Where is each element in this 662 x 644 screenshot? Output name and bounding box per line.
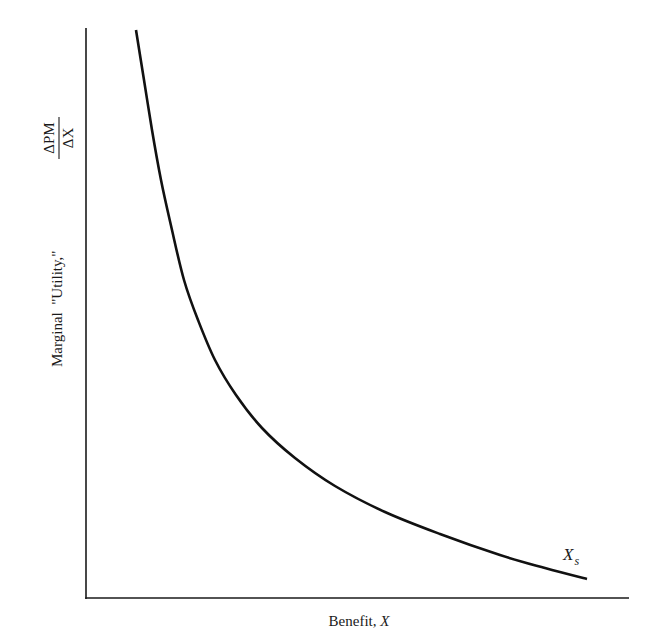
y-axis-fraction: ΔPM ΔX (41, 117, 76, 159)
y-axis-label: Marginal "Utility," ΔPM ΔX (41, 117, 76, 367)
fraction-numerator: ΔPM (41, 122, 57, 153)
y-axis-label-text: Marginal "Utility," (49, 251, 65, 367)
chart-canvas: Xs Benefit, X Marginal "Utility," ΔPM ΔX (0, 0, 662, 644)
marginal-utility-chart: Xs Benefit, X Marginal "Utility," ΔPM ΔX (0, 0, 662, 644)
x-axis-label: Benefit, X (329, 613, 391, 629)
fraction-denominator: ΔX (60, 128, 76, 149)
marginal-utility-curve (136, 30, 587, 579)
saturation-label: Xs (562, 545, 579, 568)
